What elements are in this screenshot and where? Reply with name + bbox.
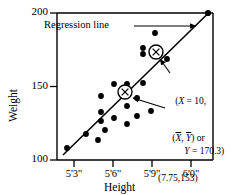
data-point <box>152 30 158 36</box>
scatter-plot-figure: 200 150 100 Weight 5'3" 5'6" 5'9" 6'0" H… <box>0 0 238 195</box>
data-point <box>124 103 130 109</box>
y-ticks <box>50 13 57 160</box>
mean-annotation-line1: (X, Y) or <box>158 124 205 154</box>
x-axis-title: Height <box>104 181 135 193</box>
data-point <box>95 137 101 143</box>
y-tick-label-100: 100 <box>8 153 48 165</box>
mean-point-annotation: (X, Y) or (7.75,153) <box>158 104 205 195</box>
predicted-point-marker <box>149 45 163 59</box>
data-point <box>140 51 146 57</box>
data-point <box>83 131 89 137</box>
data-point <box>98 93 104 99</box>
data-point <box>205 10 211 16</box>
data-point <box>140 80 146 86</box>
data-point <box>164 56 170 62</box>
data-point <box>102 127 108 133</box>
x-tick-label-1: 5'6" <box>93 168 133 179</box>
x-tick-label-0: 5'3" <box>54 168 94 179</box>
data-point <box>98 118 104 124</box>
data-point <box>111 81 117 87</box>
data-point <box>98 109 104 115</box>
mean-annotation-line2: (7.75,153) <box>158 174 205 184</box>
data-point <box>134 113 140 119</box>
y-axis-title: Weight <box>7 89 19 122</box>
or-text: ) or <box>191 133 204 143</box>
data-point <box>111 115 117 121</box>
mean-point-marker <box>118 85 132 99</box>
data-point <box>64 145 70 151</box>
y-tick-label-200: 200 <box>8 6 48 18</box>
regression-line-label: Regression line <box>44 19 109 30</box>
data-point <box>148 108 154 114</box>
data-point <box>124 121 130 127</box>
data-point <box>140 45 146 51</box>
